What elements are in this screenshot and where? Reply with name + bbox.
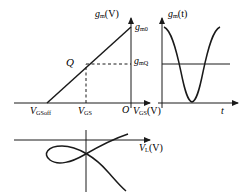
input-sine-waveform [46,134,128,191]
origin-label: O [122,105,129,115]
figure-canvas: gm(V) gm0 gmQ Q VGSoff VGS O VGS(V) gm(t… [0,0,243,196]
main-y-axis-label: gm(V) [95,9,119,20]
bottom-axis-label: VL(V) [139,143,163,154]
right-x-axis-label: t [221,106,224,116]
gm-transfer-line [47,27,131,103]
main-x-axis-label: VGS(V) [133,106,161,117]
vgsoff-label: VGSoff [30,106,51,117]
vgs-label: VGS [78,106,92,117]
operating-point-q-label: Q [66,57,74,68]
right-y-axis-label: gm(t) [168,9,187,20]
diagram-svg [0,0,243,196]
gm0-label: gm0 [135,22,148,33]
gmq-label: gmQ [134,56,148,67]
